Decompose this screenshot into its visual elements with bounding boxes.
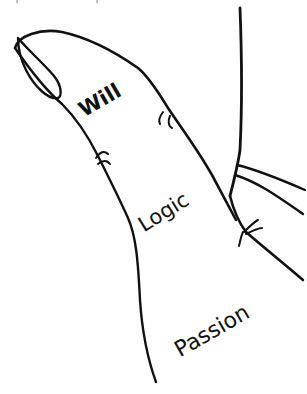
thumb-illustration	[0, 0, 307, 394]
thumbnail	[18, 38, 61, 98]
thumb-diagram: Will Logic Passion	[0, 0, 307, 394]
palm-edge	[230, 8, 242, 196]
finger-line	[235, 175, 303, 214]
finger-line	[237, 165, 305, 190]
knuckle-crease	[169, 116, 172, 128]
palm-crease	[239, 232, 243, 246]
thumb-top-contour	[15, 31, 236, 220]
knuckle-crease	[159, 112, 163, 124]
knuckle-crease	[96, 152, 108, 158]
